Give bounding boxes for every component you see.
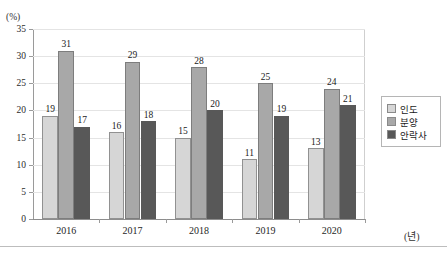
bar (175, 138, 191, 219)
bar-value-label: 19 (45, 104, 55, 114)
y-tick-label: 35 (17, 24, 27, 34)
x-tick-mark (232, 219, 233, 223)
legend-item[interactable]: 인도 (387, 102, 436, 115)
bar (308, 148, 324, 219)
legend-swatch-icon (387, 117, 396, 126)
bar-value-label: 11 (245, 148, 254, 158)
bar (340, 105, 356, 219)
x-axis-unit-label: (년) (404, 228, 420, 243)
bar (274, 116, 290, 219)
bar-value-label: 13 (311, 137, 321, 147)
y-tick-label: 5 (21, 187, 26, 197)
bar (191, 67, 207, 219)
bar (141, 121, 157, 219)
bar (74, 127, 90, 219)
x-tick-mark (365, 219, 366, 223)
bar-value-label: 15 (178, 126, 188, 136)
bar-group: 193117 (42, 29, 90, 219)
plot-area: 35302520151050 1931171629181528201125191… (33, 29, 365, 219)
legend-swatch-icon (387, 130, 396, 139)
bar-group: 152820 (175, 29, 223, 219)
x-tick-label: 2017 (123, 225, 143, 236)
x-tick-label: 2020 (322, 225, 342, 236)
y-tick-label: 10 (17, 160, 27, 170)
bar (242, 159, 258, 219)
bar (42, 116, 58, 219)
bar-value-label: 20 (210, 99, 220, 109)
bar (58, 51, 74, 219)
y-tick-label: 0 (21, 214, 26, 224)
y-axis-unit-label: (%) (6, 12, 20, 22)
y-tick-label: 20 (17, 105, 27, 115)
x-tick-mark (299, 219, 300, 223)
x-axis-line (33, 219, 365, 220)
bar-group: 132421 (308, 29, 356, 219)
bar (109, 132, 125, 219)
bar-chart: (%) (년) 35302520151050 19311716291815282… (0, 0, 447, 255)
y-tick-label: 25 (17, 78, 27, 88)
bar (258, 83, 274, 219)
bar-value-label: 25 (261, 72, 271, 82)
chart-title (0, 0, 447, 2)
bar-value-label: 16 (112, 121, 122, 131)
legend-item[interactable]: 안락사 (387, 128, 436, 141)
y-tick-label: 15 (17, 133, 27, 143)
bar-value-label: 17 (77, 115, 87, 125)
bar-value-label: 29 (128, 50, 138, 60)
y-tick-label: 30 (17, 51, 27, 61)
bar-value-label: 21 (343, 94, 353, 104)
legend: 인도분양안락사 (381, 96, 441, 147)
legend-label: 안락사 (400, 128, 427, 142)
legend-label: 인도 (400, 102, 418, 116)
bar-group: 112519 (242, 29, 290, 219)
x-tick-mark (166, 219, 167, 223)
bar (324, 89, 340, 219)
bottom-divider (0, 246, 447, 247)
bar-value-label: 28 (194, 56, 204, 66)
bar (125, 62, 141, 219)
x-tick-label: 2016 (56, 225, 76, 236)
legend-item[interactable]: 분양 (387, 115, 436, 128)
legend-swatch-icon (387, 104, 396, 113)
bar (207, 110, 223, 219)
x-tick-mark (99, 219, 100, 223)
bar-value-label: 24 (327, 77, 337, 87)
bar-group: 162918 (109, 29, 157, 219)
bar-value-label: 18 (144, 110, 154, 120)
bar-value-label: 31 (61, 39, 71, 49)
bar-value-label: 19 (277, 104, 287, 114)
x-tick-label: 2019 (255, 225, 275, 236)
bar-groups: 193117162918152820112519132421 (33, 29, 365, 219)
x-tick-label: 2018 (189, 225, 209, 236)
legend-label: 분양 (400, 115, 418, 129)
